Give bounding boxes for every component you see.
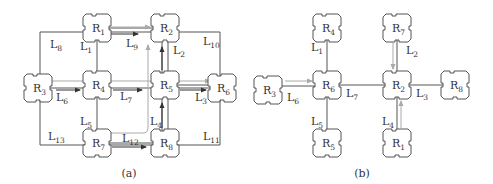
link-label-l3: L3 (195, 91, 207, 106)
router-node-r1: R1 (83, 14, 111, 42)
router-node-r6: R6 (313, 71, 341, 99)
link-label-l3: L3 (416, 87, 428, 102)
link-label-l6: L6 (287, 91, 299, 106)
router-node-r8: R8 (441, 71, 469, 99)
caption-b: (b) (354, 167, 370, 180)
router-node-r6: R6 (208, 74, 236, 102)
link-label-l6: L6 (56, 91, 68, 106)
link-label-l1: L1 (311, 41, 323, 56)
router-node-r1: R1 (383, 129, 411, 157)
link-label-l4: L4 (382, 115, 394, 130)
router-node-r3: R3 (24, 74, 52, 102)
diagram-canvas: R1R2R3R4R5R6R7R8 R4R7R3R6R2R8R5R1 L8L1L9… (0, 0, 493, 184)
panel-b-links (268, 28, 455, 143)
link-label-l13: L13 (48, 130, 65, 145)
link-label-l10: L10 (203, 35, 220, 50)
router-node-r7: R7 (83, 129, 111, 157)
router-node-r4: R4 (83, 71, 111, 99)
router-node-r5: R5 (313, 129, 341, 157)
caption-a: (a) (121, 167, 136, 180)
link-label-l5: L5 (311, 115, 323, 130)
link-label-l2: L2 (173, 44, 185, 59)
router-node-r7: R7 (383, 14, 411, 42)
router-node-r2: R2 (151, 14, 179, 42)
link-label-l9: L9 (126, 37, 138, 52)
router-node-r5: R5 (151, 71, 179, 99)
link-label-l2: L2 (406, 44, 418, 59)
router-node-r4: R4 (313, 14, 341, 42)
link-label-l12: L12 (122, 132, 139, 147)
router-node-r3: R3 (254, 76, 282, 104)
link-label-l7: L7 (346, 87, 358, 102)
panel-a-link-labels: L8L1L9L2L10L6L7L3L5L4L13L12L11 (48, 35, 220, 147)
link-label-l5: L5 (80, 115, 92, 130)
router-node-r8: R8 (151, 129, 179, 157)
link-label-l8: L8 (50, 38, 62, 53)
network-diagram: R1R2R3R4R5R6R7R8 R4R7R3R6R2R8R5R1 L8L1L9… (0, 0, 493, 184)
router-node-r2: R2 (383, 71, 411, 99)
link-label-l4: L4 (150, 115, 162, 130)
link-label-l11: L11 (203, 130, 220, 145)
link-label-l7: L7 (120, 90, 132, 105)
